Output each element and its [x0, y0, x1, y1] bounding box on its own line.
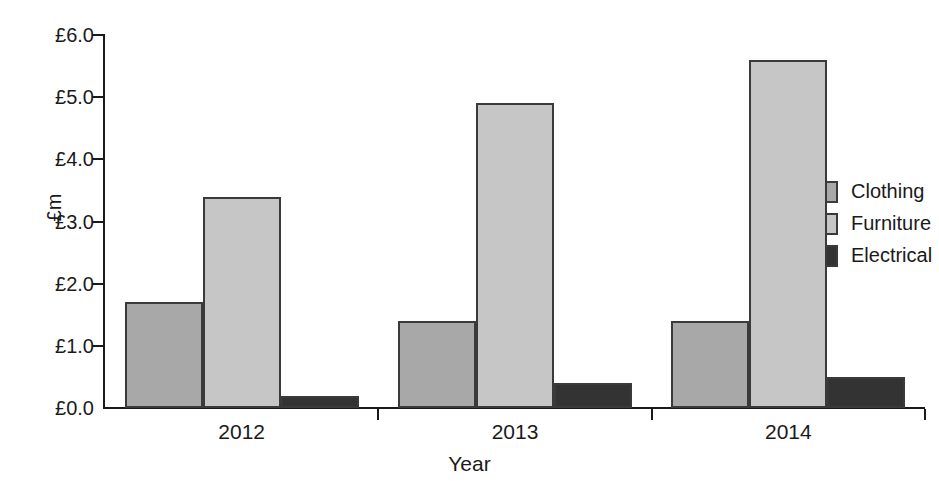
y-tick-label: £2.0	[20, 274, 94, 294]
legend-label: Electrical	[851, 244, 932, 267]
x-axis-title: Year	[0, 452, 939, 476]
plot-area	[105, 35, 925, 408]
legend-label: Clothing	[851, 180, 924, 203]
bar-clothing-2012	[125, 302, 203, 408]
x-tick-mark	[651, 409, 653, 420]
bar-electrical-2013	[554, 383, 632, 408]
y-tick-label: £3.0	[20, 212, 94, 232]
y-tick-label: £1.0	[20, 336, 94, 356]
x-tick-label: 2012	[105, 420, 378, 444]
y-tick-label: £4.0	[20, 149, 94, 169]
bar-electrical-2012	[281, 396, 359, 408]
y-tick-label: £6.0	[20, 25, 94, 45]
bar-electrical-2014	[827, 377, 905, 408]
x-tick-label: 2013	[378, 420, 651, 444]
bar-clothing-2013	[398, 321, 476, 408]
bar-clothing-2014	[671, 321, 749, 408]
bar-furniture-2012	[203, 197, 281, 408]
x-tick-label: 2014	[652, 420, 925, 444]
x-tick-mark	[377, 409, 379, 420]
y-axis-tick-labels: £0.0£1.0£2.0£3.0£4.0£5.0£6.0	[12, 0, 94, 481]
y-tick-label: £5.0	[20, 87, 94, 107]
bar-furniture-2013	[476, 103, 554, 408]
y-tick-label: £0.0	[20, 398, 94, 418]
bar-chart: £m £0.0£1.0£2.0£3.0£4.0£5.0£6.0 20122013…	[0, 0, 939, 481]
x-tick-mark	[924, 409, 926, 420]
legend-label: Furniture	[851, 212, 931, 235]
bar-furniture-2014	[749, 60, 827, 408]
